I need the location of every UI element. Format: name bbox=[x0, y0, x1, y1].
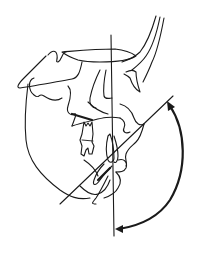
molar-tooth bbox=[80, 122, 94, 156]
angle-arc bbox=[115, 101, 183, 233]
cephalometric-tracing bbox=[0, 0, 202, 254]
vertical-reference-line bbox=[111, 35, 114, 236]
soft-tissue-profile bbox=[93, 124, 144, 204]
arrowhead-bottom-icon bbox=[115, 225, 123, 233]
cranial-base bbox=[48, 49, 136, 62]
pterygomaxillary-fissure bbox=[124, 71, 140, 93]
orbit-curves bbox=[88, 70, 112, 114]
cervical-lines bbox=[122, 16, 164, 82]
oblique-line bbox=[60, 96, 173, 204]
maxilla bbox=[67, 86, 144, 133]
face-outline bbox=[18, 56, 90, 199]
diagram-canvas bbox=[0, 0, 202, 254]
incisors bbox=[93, 134, 118, 185]
